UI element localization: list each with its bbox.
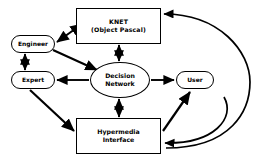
node-knet-label-line-1: KNET — [109, 18, 128, 26]
node-user[interactable]: User — [176, 71, 214, 89]
diagram-canvas: KNET (Object Pascal) Engineer Expert Dec… — [0, 0, 260, 163]
edge-expert-hypermedia — [30, 90, 74, 131]
edge-engineer-decision — [53, 50, 97, 70]
node-expert[interactable]: Expert — [11, 71, 55, 89]
node-engineer-label: Engineer — [18, 40, 48, 47]
node-hypermedia-interface-label-line-2: Interface — [103, 136, 135, 144]
node-hypermedia-interface-label-line-1: Hypermedia — [97, 128, 139, 136]
edge-hypermedia-user — [163, 92, 190, 131]
node-knet-label-line-2: (Object Pascal) — [91, 26, 146, 34]
node-knet[interactable]: KNET (Object Pascal) — [76, 8, 161, 44]
node-engineer[interactable]: Engineer — [11, 35, 55, 53]
node-hypermedia-interface[interactable]: Hypermedia Interface — [76, 118, 161, 154]
node-expert-label: Expert — [22, 76, 44, 83]
node-user-label: User — [187, 76, 202, 83]
node-decision-network-label-line-2: Network — [105, 80, 134, 88]
node-decision-network[interactable]: Decision Network — [90, 62, 150, 98]
node-decision-network-label-line-1: Decision — [105, 72, 135, 80]
